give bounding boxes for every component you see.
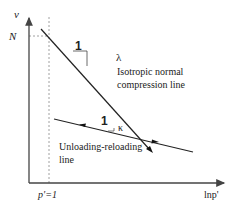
ncl-label-line1: Isotropic normal xyxy=(117,66,184,77)
ncl-slope-lambda: λ xyxy=(116,51,122,63)
url-label-line1: Unloading-reloading xyxy=(59,141,142,152)
url-slope-triangle xyxy=(108,128,114,131)
x-tick-label: p'=1 xyxy=(37,189,57,200)
n-tick-label: N xyxy=(8,30,17,42)
ncl-slope-triangle xyxy=(73,51,87,66)
url-slope-kappa: κ xyxy=(118,122,123,133)
ncl-slope-run: 1 xyxy=(75,39,82,53)
url-slope-run: 1 xyxy=(101,114,108,128)
y-axis-label: v xyxy=(14,8,19,20)
ncl-label-line2: compression line xyxy=(117,79,186,90)
critical-state-diagram: v N p'=1 lnp' 1 λ Isotropic normal compr… xyxy=(0,0,235,207)
x-axis-label: lnp' xyxy=(204,189,219,200)
url-label-line2: line xyxy=(59,154,75,165)
